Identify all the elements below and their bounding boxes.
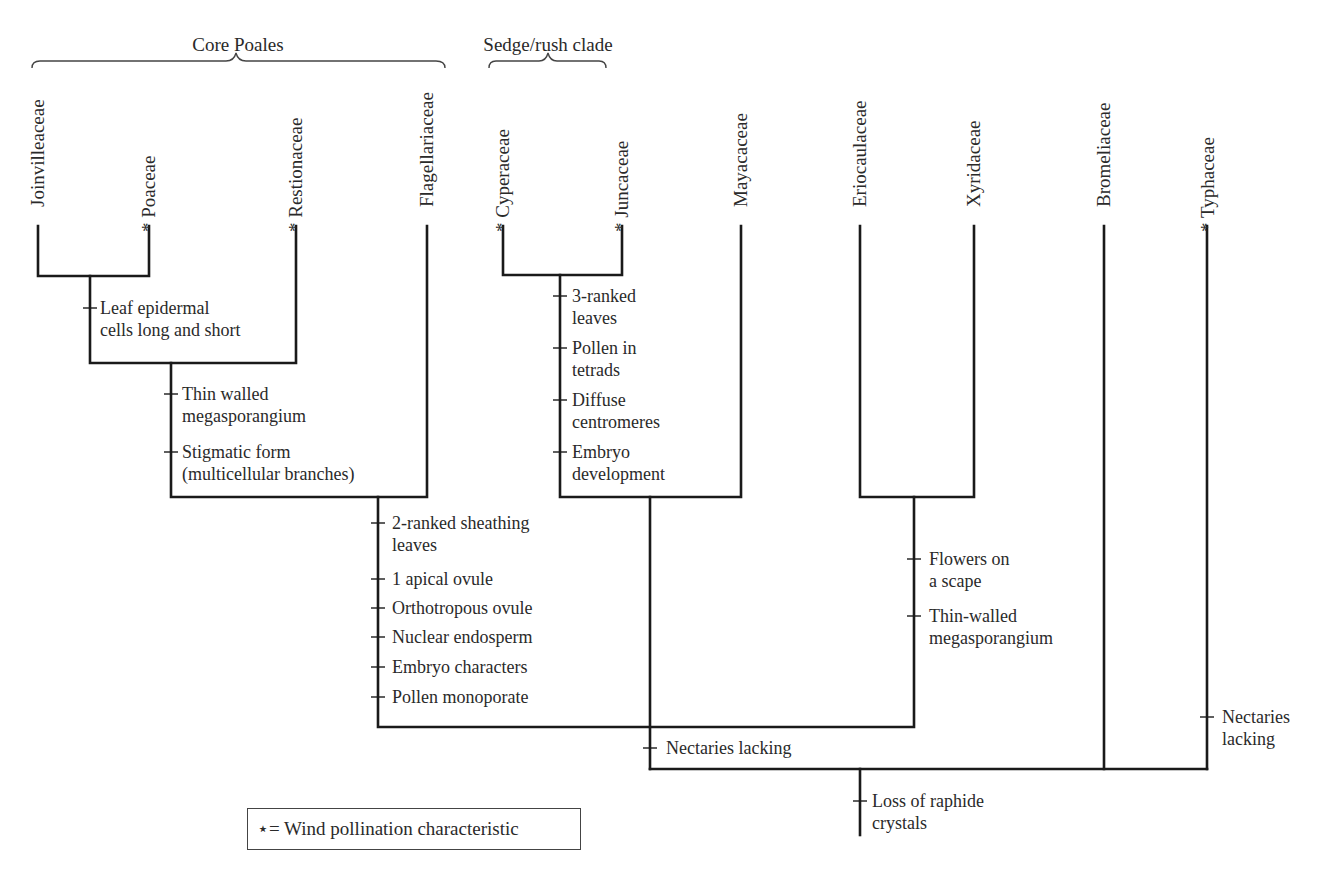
taxon-joinvilleaceae: Joinvilleaceae xyxy=(28,99,48,207)
taxon-flagellariaceae: Flagellariaceae xyxy=(417,92,437,207)
char-embryo-development: Embryo development xyxy=(572,441,665,485)
char-pollen-monoporate: Pollen monoporate xyxy=(392,686,528,708)
wind-marker: * xyxy=(138,223,159,233)
legend-text: = Wind pollination characteristic xyxy=(269,818,519,839)
branch-eriocaulaceae-xyridaceae xyxy=(860,226,974,497)
legend-box: ⋆= Wind pollination characteristic xyxy=(247,808,581,850)
char-3-ranked-leaves: 3-ranked leaves xyxy=(572,285,636,329)
taxon-bromeliaceae: Bromeliaceae xyxy=(1094,103,1114,207)
clade-label-core-poales: Core Poales xyxy=(192,34,283,56)
char-nectaries-lacking: Nectaries lacking xyxy=(666,737,791,759)
wind-marker: * xyxy=(285,223,306,233)
branch-cyperaceae-juncaceae xyxy=(503,226,622,275)
taxon-restionaceae: * Restionaceae xyxy=(286,118,306,232)
char-nectaries-lacking-typhaceae: Nectaries lacking xyxy=(1222,706,1290,750)
taxon-typhaceae: * Typhaceae xyxy=(1198,137,1218,232)
taxon-eriocaulaceae: Eriocaulaceae xyxy=(850,100,870,207)
char-loss-of-raphide-crystals: Loss of raphide crystals xyxy=(872,790,984,834)
char-1-apical-ovule: 1 apical ovule xyxy=(392,568,493,590)
wind-marker: * xyxy=(492,223,513,233)
branch-joinvilleaceae-poaceae xyxy=(38,226,149,276)
wind-marker: * xyxy=(1197,223,1218,233)
char-thin-walled-megasporangium-xyrid: Thin-walled megasporangium xyxy=(929,605,1053,649)
char-embryo-characters: Embryo characters xyxy=(392,656,527,678)
char-flowers-on-scape: Flowers on a scape xyxy=(929,548,1010,592)
char-orthotropous-ovule: Orthotropous ovule xyxy=(392,597,532,619)
taxon-cyperaceae: * Cyperaceae xyxy=(493,129,513,232)
char-leaf-epidermal: Leaf epidermal cells long and short xyxy=(100,297,240,341)
taxon-mayacaceae: Mayacaceae xyxy=(731,113,751,207)
char-diffuse-centromeres: Diffuse centromeres xyxy=(572,389,660,433)
taxon-poaceae: * Poaceae xyxy=(139,156,159,232)
clade-label-sedge-rush: Sedge/rush clade xyxy=(483,34,612,56)
star-icon: ⋆ xyxy=(257,818,269,839)
char-nuclear-endosperm: Nuclear endosperm xyxy=(392,626,532,648)
char-stigmatic-form: Stigmatic form (multicellular branches) xyxy=(182,441,354,485)
taxon-juncaceae: * Juncaceae xyxy=(612,141,632,232)
taxon-xyridaceae: Xyridaceae xyxy=(964,121,984,208)
char-thin-walled-megasporangium: Thin walled megasporangium xyxy=(182,383,306,427)
branch-restionaceae xyxy=(90,226,296,363)
char-2-ranked-sheathing-leaves: 2-ranked sheathing leaves xyxy=(392,512,529,556)
char-pollen-in-tetrads: Pollen in tetrads xyxy=(572,337,637,381)
wind-marker: * xyxy=(611,223,632,233)
character-ticks xyxy=(83,296,1214,801)
